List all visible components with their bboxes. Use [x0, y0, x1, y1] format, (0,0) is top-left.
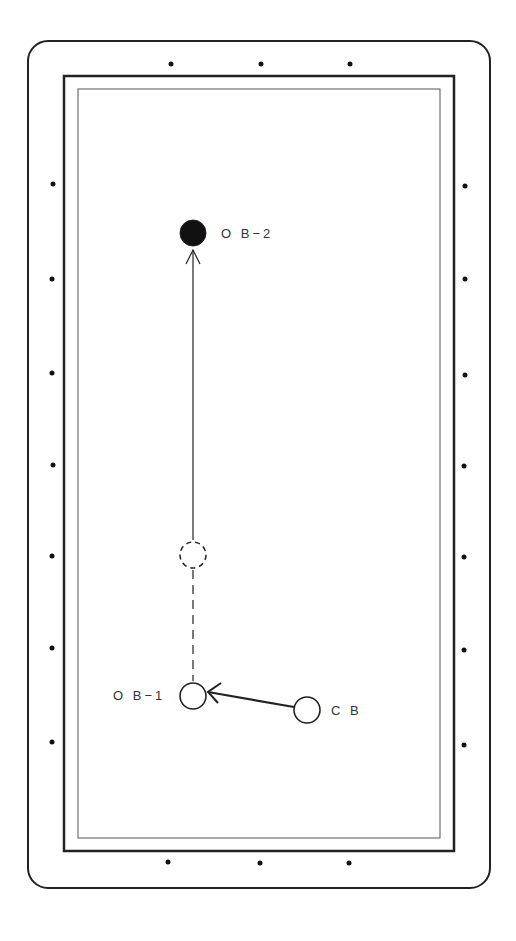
- diamond-marker-top: [259, 62, 264, 67]
- cue-ball: [294, 697, 320, 723]
- diamond-marker-top: [169, 62, 174, 67]
- diamond-marker-right: [463, 184, 468, 189]
- diamond-marker-left: [50, 554, 55, 559]
- table-rail: [64, 76, 454, 851]
- diamond-marker-right: [462, 648, 467, 653]
- diamond-marker-left: [50, 277, 55, 282]
- diamond-marker-bottom: [166, 860, 171, 865]
- diamond-marker-right: [462, 464, 467, 469]
- object-ball-1: [180, 683, 206, 709]
- table-outer-frame: [28, 41, 490, 888]
- ball-labels: O B−2 O B−1 C B: [113, 226, 362, 718]
- cue-ball-path: [208, 692, 294, 707]
- ob2-label: O B−2: [221, 226, 273, 241]
- shot-paths: [186, 250, 294, 707]
- diamond-marker-left: [51, 463, 56, 468]
- cb-label: C B: [331, 703, 362, 718]
- balls: [180, 220, 320, 723]
- diamond-marker-left: [50, 740, 55, 745]
- billiards-diagram: O B−2 O B−1 C B: [0, 0, 516, 941]
- diamond-marker-left: [50, 371, 55, 376]
- diamond-marker-right: [462, 555, 467, 560]
- object-ball-2: [180, 220, 206, 246]
- diamond-marker-bottom: [258, 861, 263, 866]
- table-canvas: O B−2 O B−1 C B: [0, 0, 516, 941]
- ghost-ball: [180, 542, 206, 568]
- diamond-marker-right: [463, 277, 468, 282]
- diamond-marker-left: [50, 646, 55, 651]
- diamond-marker-bottom: [347, 861, 352, 866]
- diamond-marker-top: [348, 62, 353, 67]
- diamond-markers: [50, 62, 468, 866]
- diamond-marker-right: [463, 373, 468, 378]
- diamond-marker-left: [51, 182, 56, 187]
- pool-table: [28, 41, 490, 888]
- diamond-marker-right: [462, 743, 467, 748]
- table-cloth-edge: [78, 89, 440, 838]
- ob1-label: O B−1: [113, 688, 165, 703]
